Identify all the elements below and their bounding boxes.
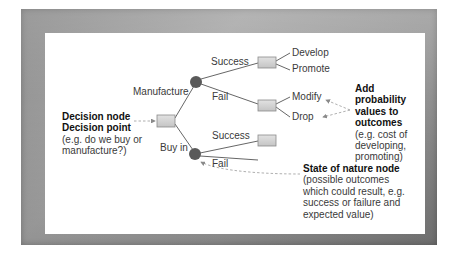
annotation-probability: Add probability values to outcomes (e.g.… bbox=[355, 83, 407, 163]
decision-node-fail bbox=[258, 100, 276, 111]
branch-label-success: Success bbox=[211, 56, 249, 68]
probability-title: Add bbox=[355, 83, 407, 94]
branch-label-fail: Fail bbox=[212, 91, 228, 103]
decision-node-root bbox=[157, 115, 175, 127]
decision-node-title: Decision node bbox=[62, 111, 142, 122]
branch-label-manufacture: Manufacture bbox=[133, 86, 189, 98]
decision-node-buy-success bbox=[258, 135, 276, 146]
state-note-line: which could result, e.g. bbox=[303, 186, 405, 197]
probability-note-line: developing, bbox=[355, 140, 407, 151]
annotation-state-of-nature: State of nature node (possible outcomes … bbox=[303, 163, 405, 220]
state-of-nature-title: State of nature node bbox=[303, 163, 405, 174]
decision-point-title: Decision point bbox=[62, 122, 142, 133]
decision-node-success bbox=[258, 57, 276, 68]
outcome-drop: Drop bbox=[292, 111, 314, 123]
probability-note-line: (e.g. cost of bbox=[355, 129, 407, 140]
outcome-modify: Modify bbox=[292, 91, 321, 103]
decision-note-line: manufacture?) bbox=[62, 145, 142, 156]
outcome-develop: Develop bbox=[292, 47, 329, 59]
probability-title: values to bbox=[355, 106, 407, 117]
decision-note-line: (e.g. do we buy or bbox=[62, 134, 142, 145]
probability-note-line: promoting) bbox=[355, 151, 407, 162]
chance-node-buy-in bbox=[189, 148, 201, 160]
branch-label-buy-in: Buy in bbox=[160, 142, 188, 154]
chance-node-manufacture bbox=[190, 76, 202, 88]
state-note-line: success or failure and bbox=[303, 197, 405, 208]
probability-title: probability bbox=[355, 94, 407, 105]
state-note-line: (possible outcomes bbox=[303, 174, 405, 185]
probability-title: outcomes bbox=[355, 117, 407, 128]
state-note-line: expected value) bbox=[303, 209, 405, 220]
annotation-decision-node: Decision node Decision point (e.g. do we… bbox=[62, 111, 142, 157]
branch-label-buy-success: Success bbox=[212, 130, 250, 142]
branch-label-buy-fail: Fail bbox=[212, 158, 228, 170]
outcome-promote: Promote bbox=[292, 63, 330, 75]
